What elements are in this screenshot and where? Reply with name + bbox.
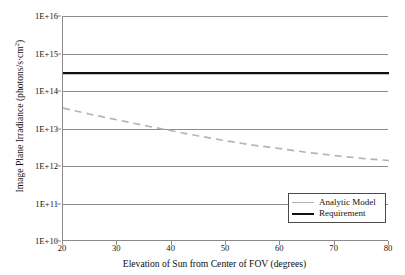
y-axis-tick-mark xyxy=(56,203,61,204)
x-axis-tick-mark xyxy=(171,241,172,245)
plot-area: Analytic Model Requirement xyxy=(62,16,388,241)
series-line-analytic-model xyxy=(63,108,389,160)
legend-label-analytic-model: Analytic Model xyxy=(319,197,376,208)
legend-swatch-analytic-model xyxy=(292,202,314,203)
y-axis-title-exponent: 2 xyxy=(13,43,20,46)
y-axis-title-base: Image Plane Irradiance (photons/s·cm xyxy=(14,46,25,192)
x-axis-title: Elevation of Sun from Center of FOV (deg… xyxy=(0,258,405,269)
y-axis-tick-mark xyxy=(56,241,61,242)
x-axis-tick-mark xyxy=(225,241,226,245)
legend: Analytic Model Requirement xyxy=(288,193,386,223)
y-axis-tick-mark xyxy=(56,128,61,129)
x-axis-tick-mark xyxy=(116,241,117,245)
chart-figure: 1E+101E+111E+121E+131E+141E+151E+16 Imag… xyxy=(0,0,405,275)
legend-item-analytic-model: Analytic Model xyxy=(292,197,381,208)
y-axis-tick-mark xyxy=(56,91,61,92)
y-axis-title: Image Plane Irradiance (photons/s·cm2) xyxy=(13,1,25,231)
x-axis-tick-mark xyxy=(279,241,280,245)
y-axis-tick-mark xyxy=(56,53,61,54)
y-axis-title-tail: ) xyxy=(14,40,25,43)
x-axis-tick-mark xyxy=(388,241,389,245)
legend-label-requirement: Requirement xyxy=(319,208,366,219)
legend-swatch-requirement xyxy=(292,213,314,215)
x-axis-tick-mark xyxy=(334,241,335,245)
y-axis-tick-mark xyxy=(56,16,61,17)
y-axis-tick-mark xyxy=(56,166,61,167)
legend-item-requirement: Requirement xyxy=(292,208,381,219)
x-axis-tick-mark xyxy=(62,241,63,245)
